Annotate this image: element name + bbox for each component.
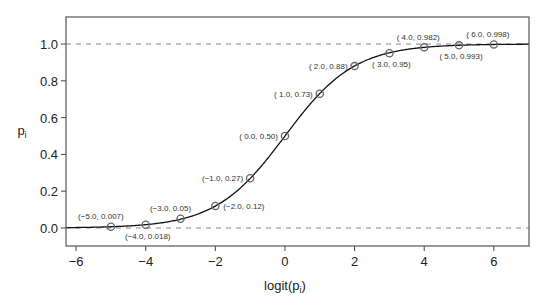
x-tick-label: 6 — [490, 254, 497, 269]
y-tick-label: 0.0 — [40, 221, 58, 236]
data-points — [107, 41, 497, 230]
x-tick-label: −6 — [69, 254, 84, 269]
reference-lines — [66, 44, 529, 228]
y-tick-label: 0.6 — [40, 111, 58, 126]
y-tick-label: 0.2 — [40, 184, 58, 199]
point-annotation-label: (−1.0, 0.27) — [202, 174, 243, 183]
y-tick-label: 0.8 — [40, 74, 58, 89]
point-annotation-label: ( 6.0, 0.998) — [466, 30, 509, 39]
point-annotation-label: (−3.0, 0.05) — [150, 204, 191, 213]
logistic-chart: (−5.0, 0.007)(−4.0, 0.018)(−3.0, 0.05)(−… — [0, 0, 552, 300]
y-tick-label: 0.4 — [40, 147, 58, 162]
x-axis-label: logit(pi) — [264, 278, 306, 295]
y-axis: 0.00.20.40.60.81.0 — [40, 37, 66, 236]
x-axis: −6−4−20246 — [69, 246, 498, 269]
y-axis-label: pi — [17, 123, 26, 140]
x-tick-label: 4 — [421, 254, 428, 269]
point-annotation-label: ( 5.0, 0.993) — [439, 52, 482, 61]
logistic-curve — [66, 44, 529, 227]
logistic-curve-line — [66, 44, 529, 227]
point-annotation-label: ( 2.0, 0.88) — [309, 62, 348, 71]
chart-canvas: (−5.0, 0.007)(−4.0, 0.018)(−3.0, 0.05)(−… — [0, 0, 552, 300]
point-annotation-label: (−2.0, 0.12) — [223, 202, 264, 211]
point-annotation-label: ( 1.0, 0.73) — [274, 90, 313, 99]
point-annotations: (−5.0, 0.007)(−4.0, 0.018)(−3.0, 0.05)(−… — [78, 30, 510, 240]
point-annotation-label: ( 0.0, 0.50) — [239, 132, 278, 141]
point-annotation-label: ( 3.0, 0.95) — [372, 60, 411, 69]
x-tick-label: −4 — [138, 254, 153, 269]
x-tick-label: 0 — [281, 254, 288, 269]
point-annotation-label: (−5.0, 0.007) — [78, 212, 124, 221]
point-annotation-label: (−4.0, 0.018) — [125, 232, 171, 241]
x-tick-label: 2 — [351, 254, 358, 269]
x-tick-label: −2 — [208, 254, 223, 269]
point-annotation-label: ( 4.0, 0.982) — [397, 33, 440, 42]
y-tick-label: 1.0 — [40, 37, 58, 52]
